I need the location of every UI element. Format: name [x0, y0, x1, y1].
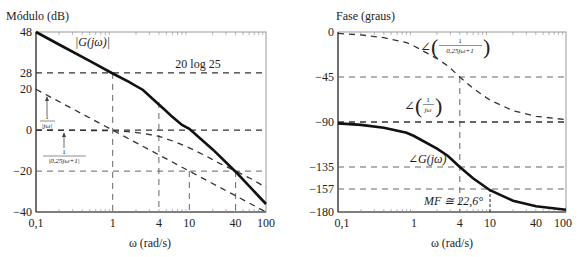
svg-text:28: 28	[20, 66, 32, 80]
svg-text:): )	[483, 34, 490, 59]
svg-text:1: 1	[110, 216, 116, 230]
svg-text:): )	[435, 93, 442, 118]
magnitude-minor-ticks	[59, 32, 263, 212]
svg-text:(: (	[415, 93, 422, 118]
annotation-integrator-phase: ∠ ( 1 jω )	[404, 93, 442, 118]
svg-text:1: 1	[45, 113, 49, 121]
svg-text:4: 4	[457, 216, 463, 230]
svg-text:0: 0	[328, 25, 334, 39]
svg-text:−90: −90	[315, 115, 334, 129]
svg-text:|0,25jω+1|: |0,25jω+1|	[48, 157, 79, 165]
magnitude-curve	[36, 32, 266, 204]
svg-text:∠: ∠	[404, 98, 415, 113]
bode-plots: Módulo (dB)	[0, 0, 588, 257]
phase-plot: Fase (graus) 0 −45 −90 −	[309, 9, 572, 250]
svg-text:1: 1	[411, 216, 417, 230]
svg-text:∠: ∠	[420, 39, 431, 54]
annotation-pole: 1 |0,25jω+1|	[43, 132, 86, 165]
svg-text:40: 40	[230, 216, 242, 230]
annotation-magnitude-G: |G(jω)|	[75, 35, 110, 49]
svg-text:48: 48	[20, 25, 32, 39]
phase-y-tick-labels: 0 −45 −90 −135 −157 −180	[309, 25, 334, 219]
svg-text:(: (	[431, 34, 438, 59]
svg-text:1: 1	[426, 96, 430, 104]
svg-text:jω: jω	[424, 106, 432, 114]
phase-x-tick-labels: 0,1 1 4 10 40 100	[335, 216, 573, 230]
svg-text:|jω|: |jω|	[42, 122, 53, 130]
phase-reference-lines	[338, 77, 566, 212]
magnitude-x-tick-labels: 0,1 1 4 10 40 100	[29, 216, 276, 230]
svg-text:−180: −180	[309, 205, 334, 219]
magnitude-reference-lines	[36, 73, 266, 212]
phase-y-axis-title: Fase (graus)	[336, 9, 395, 23]
integrator-asymptote	[36, 89, 266, 212]
svg-text:4: 4	[156, 216, 162, 230]
annotation-pole-phase: ∠ ( 1 0,25jω+1 )	[420, 34, 490, 59]
annotation-phase-G: ∠G(jω)	[408, 152, 447, 166]
svg-text:−45: −45	[315, 70, 334, 84]
svg-text:−157: −157	[309, 182, 334, 196]
svg-text:0,1: 0,1	[335, 216, 350, 230]
svg-text:100: 100	[257, 216, 275, 230]
annotation-phase-margin: MF ≅ 22,6°	[423, 194, 483, 208]
svg-text:1: 1	[458, 37, 462, 45]
svg-text:0,1: 0,1	[29, 216, 44, 230]
magnitude-x-axis-title: ω (rad/s)	[129, 236, 171, 250]
svg-text:100: 100	[554, 216, 572, 230]
magnitude-y-axis-title: Módulo (dB)	[6, 9, 69, 23]
svg-text:1: 1	[62, 148, 66, 156]
magnitude-y-tick-labels: 48 28 20 0 −20 −40	[13, 25, 32, 219]
phase-x-axis-title: ω (rad/s)	[431, 236, 473, 250]
annotation-integrator: 1 |jω|	[40, 96, 55, 130]
svg-text:40: 40	[530, 216, 542, 230]
svg-text:−135: −135	[309, 160, 334, 174]
svg-text:−20: −20	[13, 164, 32, 178]
svg-text:10: 10	[484, 216, 496, 230]
magnitude-plot-frame	[36, 32, 266, 212]
svg-text:10: 10	[183, 216, 195, 230]
annotation-20log25: 20 log 25	[175, 57, 220, 71]
svg-text:0: 0	[26, 123, 32, 137]
svg-text:20: 20	[20, 82, 32, 96]
svg-text:0,25jω+1: 0,25jω+1	[446, 47, 473, 55]
magnitude-plot: Módulo (dB)	[6, 9, 275, 250]
